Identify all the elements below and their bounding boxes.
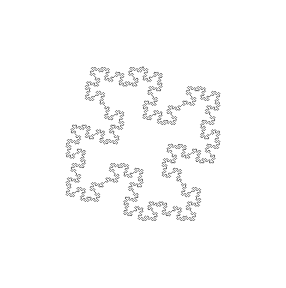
fractal-curve-path [16, 17, 271, 272]
fractal-canvas [0, 0, 286, 288]
fractal-rotation-group [16, 17, 271, 272]
fractal-figure [0, 0, 286, 288]
